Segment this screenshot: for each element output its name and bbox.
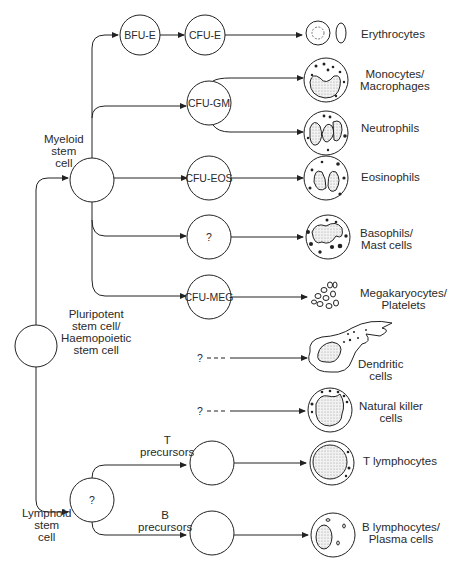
- b-lymphocytes-label: B lymphocytes/ Plasma cells: [362, 521, 440, 545]
- pluripotent-stem-cell-node: [15, 325, 57, 367]
- dendritic-cells-label: Dendritic cells: [358, 358, 403, 382]
- cfu-e-node: CFU-E: [189, 29, 221, 41]
- cfu-gm-node: CFU-GM: [188, 97, 230, 109]
- nk-cell-illustration: [308, 388, 352, 432]
- megakaryocytes-label: Megakaryocytes/ Platelets: [360, 287, 447, 311]
- lymphoid-node-text: ?: [89, 494, 95, 506]
- cfu-meg-node: CFU-MEG: [185, 291, 234, 303]
- neutrophil-illustration: [304, 111, 348, 155]
- b-lymphocyte-illustration: [311, 513, 355, 557]
- t-lymphocyte-illustration: [310, 441, 354, 485]
- t-lymphocytes-label: T lymphocytes: [363, 455, 437, 467]
- bfu-e-node: BFU-E: [124, 29, 156, 41]
- myeloid-stem-cell-label: Myeloid stem cell: [44, 133, 84, 169]
- pluripotent-stem-cell-label: Pluripotent stem cell/ Haemopoietic stem…: [61, 308, 131, 356]
- lymphoid-stem-cell-label: Lymphoid stem cell: [22, 507, 71, 543]
- eosinophil-illustration: [304, 156, 348, 200]
- dendritic-source-unknown: ?: [197, 352, 203, 364]
- b-precursors-label: B precursors: [138, 509, 192, 533]
- nk-source-unknown: ?: [197, 405, 203, 417]
- nk-cells-label: Natural killer cells: [359, 400, 423, 424]
- erythrocytes-label: Erythrocytes: [361, 28, 425, 40]
- basophils-label: Basophils/ Mast cells: [360, 227, 413, 251]
- cfu-eos-node: CFU-EOS: [185, 172, 232, 184]
- platelets-illustration: [312, 282, 339, 309]
- neutrophils-label: Neutrophils: [361, 122, 419, 134]
- unknown-basophil-progenitor-node: ?: [206, 231, 212, 243]
- monocyte-illustration: [304, 58, 348, 102]
- monocytes-label: Monocytes/ Macrophages: [360, 68, 430, 92]
- erythrocyte-illustration: [306, 21, 346, 45]
- t-precursors-label: T precursors: [140, 434, 194, 458]
- basophil-illustration: [306, 215, 350, 259]
- eosinophils-label: Eosinophils: [361, 171, 420, 183]
